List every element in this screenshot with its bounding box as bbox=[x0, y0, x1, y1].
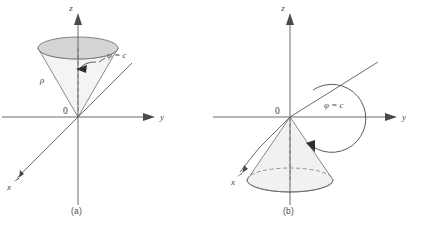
axis-z-arrowhead bbox=[74, 13, 82, 25]
rho-label: ρ bbox=[39, 75, 45, 85]
axis-x-arrowhead bbox=[236, 165, 248, 177]
origin-label: 0 bbox=[63, 106, 68, 116]
axis-z-label: z bbox=[280, 3, 285, 13]
panel-b-drawing: z y x 0 φ = c bbox=[211, 0, 422, 227]
axis-x-line bbox=[17, 117, 78, 178]
panel-a-caption: (a) bbox=[71, 206, 82, 216]
axis-z-label: z bbox=[68, 3, 73, 13]
axis-x-label: x bbox=[230, 177, 235, 187]
axis-z-arrowhead bbox=[286, 13, 294, 25]
axis-y-arrowhead bbox=[143, 113, 155, 121]
phi-equals-c-label: φ = c bbox=[107, 50, 127, 60]
panel-a-drawing: z y x 0 ρ φ = c bbox=[0, 0, 211, 227]
panel-b-caption: (b) bbox=[283, 206, 294, 216]
reflex-angle-arc bbox=[312, 84, 366, 152]
spherical-coordinates-figure: z y x 0 ρ φ = c (a) bbox=[0, 0, 422, 227]
axis-y-arrowhead bbox=[385, 113, 397, 121]
diagram-panel-a: z y x 0 ρ φ = c (a) bbox=[0, 0, 211, 227]
axis-x-label: x bbox=[6, 182, 11, 192]
axis-y-label: y bbox=[401, 112, 406, 122]
axis-y-label: y bbox=[159, 112, 164, 122]
diagram-panel-b: z y x 0 φ = c (b) bbox=[211, 0, 422, 227]
phi-equals-c-label: φ = c bbox=[324, 100, 344, 110]
origin-label: 0 bbox=[275, 106, 280, 116]
